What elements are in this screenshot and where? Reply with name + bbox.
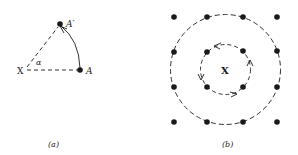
angle-alpha-label: α	[36, 58, 42, 67]
caption-b: (b)	[222, 140, 233, 149]
point-a-prime-label: A′	[65, 19, 75, 29]
point-a	[77, 67, 83, 73]
figure-b: X (b)	[171, 14, 281, 149]
radius-line-a-prime	[27, 27, 58, 67]
center-x-label-a: X	[17, 66, 24, 76]
arrow-bottom-icon	[230, 92, 237, 97]
figure-a: X α A A′ (a)	[17, 19, 93, 149]
center-x-label-b: X	[221, 65, 229, 76]
point-a-prime	[57, 21, 63, 27]
caption-a: (a)	[48, 140, 59, 149]
figure-canvas: X α A A′ (a) X (b)	[0, 0, 298, 155]
point-a-label: A	[85, 66, 93, 76]
